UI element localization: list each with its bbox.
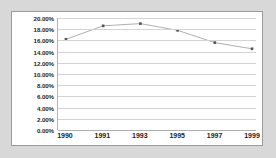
y-tick-label: 6.00% [37, 93, 54, 100]
x-tick-label: 1997 [207, 132, 223, 139]
x-tick-label: 1991 [95, 132, 111, 139]
y-axis: 20.00%18.00%16.00%14.00%12.00%10.00%8.00… [12, 18, 56, 130]
gridline [58, 119, 256, 120]
y-tick-label: 4.00% [37, 104, 54, 111]
gridline [58, 74, 256, 75]
y-tick-label: 16.00% [34, 37, 54, 44]
y-tick-label: 18.00% [34, 26, 54, 33]
data-point-marker [139, 22, 142, 25]
chart-card: 20.00%18.00%16.00%14.00%12.00%10.00%8.00… [11, 11, 263, 146]
data-point-marker [102, 24, 105, 27]
gridline [58, 52, 256, 53]
x-tick-label: 1995 [169, 132, 185, 139]
y-tick-label: 14.00% [34, 48, 54, 55]
y-tick-label: 2.00% [37, 115, 54, 122]
gridline [58, 96, 256, 97]
y-tick-label: 12.00% [34, 59, 54, 66]
plot-area [57, 18, 256, 130]
gridline [58, 63, 256, 64]
gridline [58, 108, 256, 109]
gridline [58, 130, 256, 131]
x-tick-label: 1993 [132, 132, 148, 139]
data-point-marker [214, 41, 217, 44]
y-tick-label: 0.00% [37, 127, 54, 134]
gridline [58, 85, 256, 86]
x-tick-label: 1999 [244, 132, 260, 139]
gridline [58, 29, 256, 30]
y-tick-label: 8.00% [37, 82, 54, 89]
x-tick-label: 1990 [57, 132, 73, 139]
gridline [58, 18, 256, 19]
data-point-marker [251, 47, 254, 50]
gridline [58, 40, 256, 41]
series-line [66, 24, 252, 49]
chart-plot-wrapper: 20.00%18.00%16.00%14.00%12.00%10.00%8.00… [12, 12, 262, 145]
y-tick-label: 20.00% [34, 15, 54, 22]
y-tick-label: 10.00% [34, 71, 54, 78]
x-axis: 199019911993199519971999 [57, 132, 256, 144]
